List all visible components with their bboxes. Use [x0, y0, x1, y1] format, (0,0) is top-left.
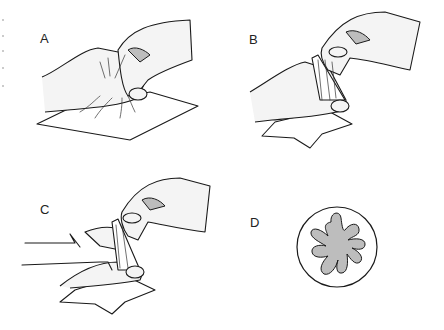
panel-label-b: B — [249, 32, 258, 47]
page-edge-marks — [2, 19, 4, 87]
panel-label-d: D — [250, 215, 259, 230]
panel-label-a: A — [40, 31, 49, 46]
arrow-upper — [25, 234, 80, 247]
panel-a-drawing — [37, 20, 198, 140]
panel-b-drawing — [250, 12, 420, 148]
illustration-canvas — [0, 0, 444, 330]
figure: A B C D — [0, 0, 444, 330]
panel-d-drawing — [297, 207, 377, 287]
panel-label-c: C — [40, 202, 49, 217]
panel-c-drawing — [22, 178, 210, 314]
